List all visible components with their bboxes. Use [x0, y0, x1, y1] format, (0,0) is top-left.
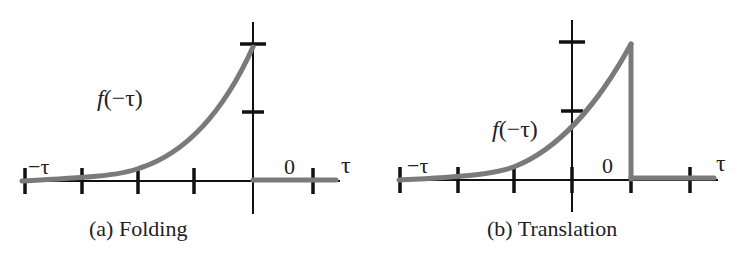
folded-function-curve	[22, 47, 253, 181]
neg-tau-label: −τ	[28, 154, 49, 179]
panel-folding: −τ f(−τ) 0 τ (a) Folding	[20, 22, 351, 241]
zero-label: 0	[602, 153, 613, 178]
panel-translation: −τ f(−τ) 0 τ (b) Translation	[398, 20, 726, 241]
caption-translation: (b) Translation	[487, 216, 617, 241]
translated-function-curve	[399, 44, 631, 180]
function-label: f(−τ)	[492, 116, 538, 142]
zero-label: 0	[284, 154, 295, 179]
caption-folding: (a) Folding	[89, 216, 187, 241]
convolution-diagram: −τ f(−τ) 0 τ (a) Folding −τ f(−τ) 0 τ (b…	[0, 0, 747, 254]
neg-tau-label: −τ	[407, 153, 428, 178]
function-label: f(−τ)	[97, 85, 143, 111]
tau-axis-label: τ	[716, 150, 726, 176]
tau-axis-label: τ	[341, 152, 351, 178]
